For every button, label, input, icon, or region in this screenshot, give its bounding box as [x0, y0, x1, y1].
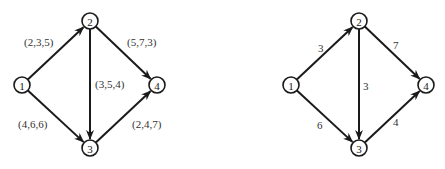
node-1: 1 — [283, 77, 299, 93]
edge-label: (5,7,3) — [127, 36, 157, 49]
edge-label: 4 — [393, 116, 399, 128]
arrow-icon — [297, 90, 353, 141]
node-label: 4 — [423, 80, 429, 92]
node-label: 2 — [87, 16, 93, 28]
edge-1-2 — [297, 27, 353, 79]
arrow-icon — [96, 27, 151, 79]
node-label: 3 — [356, 143, 362, 155]
edge-label: 7 — [393, 39, 399, 51]
node-4: 4 — [149, 77, 165, 93]
edge-label: 6 — [317, 119, 323, 131]
edge-label: 3 — [318, 42, 324, 54]
node-1: 1 — [14, 77, 30, 93]
node-3: 3 — [82, 140, 98, 156]
edge-1-3 — [297, 90, 353, 141]
arrow-icon — [96, 91, 151, 142]
node-label: 4 — [154, 80, 160, 92]
edge-label: (4,6,6) — [18, 118, 48, 131]
edge-2-4 — [365, 27, 420, 79]
network-diagrams: (2,3,5)(4,6,6)(3,5,4)(5,7,3)(2,4,7)36374… — [0, 0, 445, 169]
node-label: 1 — [19, 80, 25, 92]
node-2: 2 — [82, 13, 98, 29]
node-4: 4 — [418, 77, 434, 93]
edge-label: 3 — [363, 80, 369, 92]
arrow-icon — [28, 90, 84, 141]
edge-label: (2,4,7) — [132, 118, 162, 131]
node-label: 1 — [288, 80, 294, 92]
edge-2-4 — [96, 27, 151, 79]
arrow-icon — [297, 27, 353, 79]
node-label: 2 — [356, 16, 362, 28]
node-label: 3 — [87, 143, 93, 155]
edge-3-4 — [96, 91, 151, 142]
node-3: 3 — [351, 140, 367, 156]
edge-label: (2,3,5) — [24, 36, 54, 49]
edge-label: (3,5,4) — [95, 78, 125, 91]
edge-1-3 — [28, 90, 84, 141]
arrow-icon — [365, 27, 420, 79]
node-2: 2 — [351, 13, 367, 29]
